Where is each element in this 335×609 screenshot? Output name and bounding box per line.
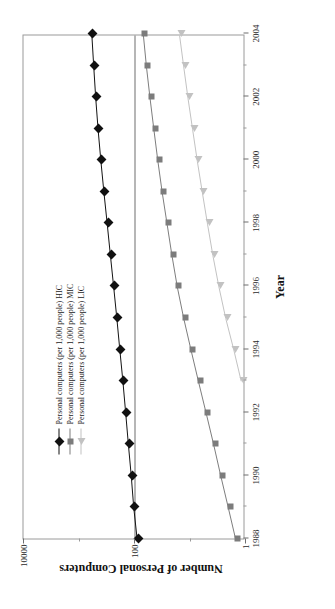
data-point-marker [234,535,240,541]
x-tick-mark [243,285,248,286]
data-point-marker [165,219,171,225]
y-tick-label: 10000 [18,538,28,567]
data-point-marker [92,93,99,100]
data-point-marker [117,345,124,352]
x-tick-label: 2002 [250,87,260,105]
data-point-marker [205,219,213,226]
square-marker-icon [69,428,70,454]
data-point-marker [210,250,218,257]
x-tick-mark [243,537,248,538]
legend-label: Personal computers (per 1,000 people) HI… [53,284,64,424]
data-point-marker [160,188,166,194]
plot-area: 110010000 198819901992199419961998200020… [22,34,244,539]
data-point-marker [95,124,102,131]
legend-item: Personal computers (per 1,000 people) HI… [53,283,64,454]
data-point-marker [104,219,111,226]
data-point-marker [181,61,189,68]
data-point-marker [190,124,198,131]
data-point-marker [170,251,176,257]
data-point-marker [219,472,225,478]
data-point-marker [182,314,188,320]
x-tick-label: 1998 [250,213,260,231]
y-minor-tick-mark [78,538,79,541]
data-point-marker [144,62,150,68]
data-point-marker [223,314,231,321]
data-point-marker [177,30,185,37]
triangle-marker-icon [80,428,81,454]
x-minor-tick-mark [243,442,246,443]
x-tick-label: 2000 [250,150,260,168]
x-tick-label: 1996 [250,277,260,295]
x-tick-mark [243,411,248,412]
data-point-marker [227,503,233,509]
legend-label: Personal computers (per 1,000 people) LI… [75,285,86,424]
data-point-marker [98,156,105,163]
data-point-marker [152,125,158,131]
x-tick-label: 2004 [250,24,260,42]
x-tick-mark [243,348,248,349]
data-point-marker [101,187,108,194]
x-minor-tick-mark [243,316,246,317]
legend-item: Personal computers (per 1,000 people) LI… [75,283,86,454]
y-tick-label: 100 [129,538,139,558]
data-point-marker [175,283,181,289]
data-point-marker [123,408,130,415]
legend-label: Personal computers (per 1,000 people) MI… [64,283,75,424]
y-axis-title: Number of Personal Computers [30,561,252,576]
data-point-marker [114,314,121,321]
data-point-marker [107,250,114,257]
data-point-marker [199,187,207,194]
x-tick-mark [243,158,248,159]
x-tick-mark [243,474,248,475]
x-minor-tick-mark [243,190,246,191]
y-minor-tick-mark [189,538,190,541]
chart-figure: 110010000 198819901992199419961998200020… [0,0,335,609]
data-point-marker [231,345,239,352]
data-point-marker [194,156,202,163]
data-point-marker [204,409,210,415]
data-point-marker [120,377,127,384]
data-point-marker [156,156,162,162]
x-minor-tick-mark [243,127,246,128]
y-tick-label: 1 [240,538,250,549]
legend-item: Personal computers (per 1,000 people) MI… [64,283,75,454]
series-line-2 [179,35,241,381]
data-point-marker [89,30,96,37]
x-minor-tick-mark [243,64,246,65]
data-point-marker [125,440,132,447]
data-point-marker [90,61,97,68]
data-point-marker [197,377,203,383]
data-point-marker [185,93,193,100]
diamond-marker-icon [58,428,59,454]
x-tick-label: 1990 [250,466,260,484]
data-point-marker [131,503,138,510]
x-minor-tick-mark [243,253,246,254]
x-minor-tick-mark [243,379,246,380]
x-tick-mark [243,221,248,222]
x-tick-label: 1994 [250,340,260,358]
chart-legend: Personal computers (per 1,000 people) HI… [53,283,86,454]
data-point-marker [148,93,154,99]
data-point-marker [111,282,118,289]
x-tick-mark [243,32,248,33]
data-point-marker [216,282,224,289]
data-point-marker [212,440,218,446]
x-axis-title: Year [272,34,287,539]
data-point-marker [189,346,195,352]
data-point-marker [141,30,147,36]
x-tick-mark [243,95,248,96]
x-tick-label: 1988 [250,529,260,547]
x-minor-tick-mark [243,505,246,506]
x-tick-label: 1992 [250,403,260,421]
data-point-marker [128,471,135,478]
